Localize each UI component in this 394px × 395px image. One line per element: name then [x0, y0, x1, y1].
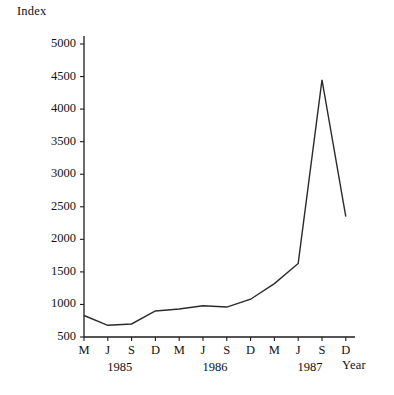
plot-area	[0, 0, 394, 395]
chart-container: Index Year 50010001500200025003000350040…	[0, 0, 394, 395]
data-series	[84, 80, 346, 325]
series-line	[84, 80, 346, 325]
axes	[80, 36, 355, 341]
